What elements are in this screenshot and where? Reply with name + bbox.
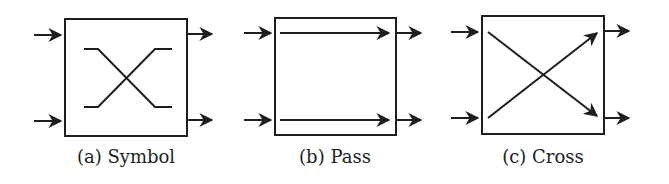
switch-box [275, 18, 396, 135]
caption-cross: (c) Cross [502, 146, 584, 167]
panel-symbol [34, 19, 212, 136]
panel-pass [244, 18, 421, 135]
symbol-path-up [84, 49, 172, 107]
caption-symbol: (a) Symbol [77, 146, 175, 167]
panel-cross [451, 16, 629, 134]
symbol-path-down [84, 49, 172, 107]
caption-pass: (b) Pass [299, 146, 371, 167]
